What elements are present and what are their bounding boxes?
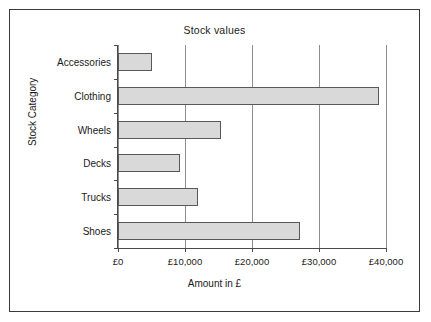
y-axis-category-label: Trucks <box>81 192 111 203</box>
y-axis-category-label: Accessories <box>57 56 111 67</box>
y-axis-category-label: Wheels <box>78 124 111 135</box>
chart-title: Stock values <box>10 24 419 36</box>
y-axis-title: Stock Category <box>27 78 38 146</box>
y-axis-category-label: Shoes <box>83 226 111 237</box>
bar <box>118 188 198 206</box>
x-axis-tick-label: £30,000 <box>302 256 336 267</box>
x-gridline <box>185 45 186 248</box>
x-axis-tick-label: £20,000 <box>235 256 269 267</box>
x-axis-tick <box>118 248 119 252</box>
y-axis-tick <box>114 248 118 249</box>
bar <box>118 53 152 71</box>
x-gridline <box>118 45 119 248</box>
y-axis-tick <box>114 147 118 148</box>
plot-area: £0£10,000£20,000£30,000£40,000Accessorie… <box>117 45 386 249</box>
y-axis-category-label: Decks <box>83 158 111 169</box>
bar <box>118 154 180 172</box>
x-axis-tick <box>386 248 387 252</box>
x-gridline <box>386 45 387 248</box>
y-axis-category-label: Clothing <box>74 90 111 101</box>
y-axis-tick <box>114 79 118 80</box>
x-axis-title: Amount in £ <box>10 278 419 289</box>
y-axis-tick <box>114 45 118 46</box>
x-gridline <box>252 45 253 248</box>
y-axis-tick <box>114 113 118 114</box>
x-axis-tick <box>185 248 186 252</box>
x-axis-tick <box>252 248 253 252</box>
y-axis-tick <box>114 180 118 181</box>
x-axis-tick <box>319 248 320 252</box>
bar <box>118 87 379 105</box>
bar <box>118 222 300 240</box>
x-axis-tick-label: £0 <box>113 256 124 267</box>
y-axis-tick <box>114 214 118 215</box>
bar <box>118 121 221 139</box>
chart-frame: Stock values Stock Category Amount in £ … <box>9 9 420 312</box>
x-axis-tick-label: £40,000 <box>369 256 403 267</box>
x-axis-tick-label: £10,000 <box>168 256 202 267</box>
x-gridline <box>319 45 320 248</box>
